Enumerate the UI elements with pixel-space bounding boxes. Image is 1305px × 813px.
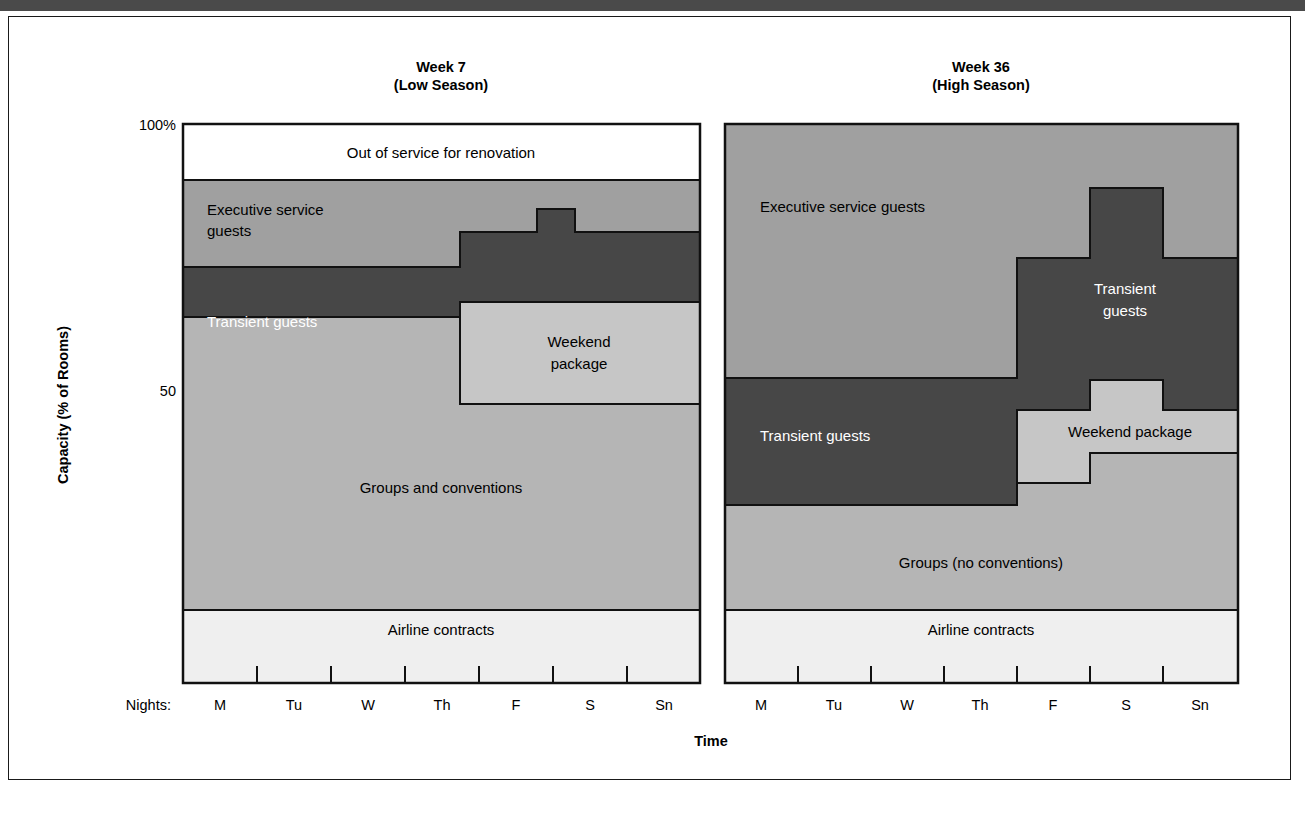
right-day-label-sn: Sn bbox=[1191, 697, 1209, 713]
right-day-label-tu: Tu bbox=[826, 697, 842, 713]
right-day-label-f: F bbox=[1049, 697, 1058, 713]
left-day-labels: M Tu W Th F S Sn bbox=[214, 697, 673, 713]
capacity-chart-svg: Capacity (% of Rooms) 100% 50 Week 7 (Lo… bbox=[0, 0, 1305, 813]
y-tick-50: 50 bbox=[160, 383, 176, 399]
left-label-executive-line2: guests bbox=[207, 222, 251, 239]
right-label-transient-left: Transient guests bbox=[760, 427, 870, 444]
left-day-label-sn: Sn bbox=[655, 697, 673, 713]
right-label-executive: Executive service guests bbox=[760, 198, 925, 215]
left-label-weekend-line2: package bbox=[551, 355, 608, 372]
right-day-label-w: W bbox=[900, 697, 914, 713]
left-panel-title: Week 7 bbox=[416, 59, 466, 75]
right-panel-title: Week 36 bbox=[952, 59, 1010, 75]
left-day-label-w: W bbox=[361, 697, 375, 713]
left-label-weekend-line1: Weekend bbox=[547, 333, 610, 350]
y-axis-title: Capacity (% of Rooms) bbox=[55, 326, 71, 484]
right-day-label-s: S bbox=[1121, 697, 1131, 713]
right-day-label-m: M bbox=[755, 697, 767, 713]
right-label-transient-line2: guests bbox=[1103, 302, 1147, 319]
right-label-weekend: Weekend package bbox=[1068, 423, 1192, 440]
left-label-renovation: Out of service for renovation bbox=[347, 144, 535, 161]
panel-week-36: Week 36 (High Season) Executive service … bbox=[725, 59, 1238, 713]
right-day-labels: M Tu W Th F S Sn bbox=[755, 697, 1209, 713]
nights-axis-label: Nights: bbox=[126, 697, 171, 713]
right-label-airline: Airline contracts bbox=[928, 621, 1035, 638]
y-axis-group: Capacity (% of Rooms) 100% 50 bbox=[55, 117, 176, 484]
left-label-executive-line1: Executive service bbox=[207, 201, 324, 218]
figure-stage: Capacity (% of Rooms) 100% 50 Week 7 (Lo… bbox=[0, 0, 1305, 813]
left-label-transient: Transient guests bbox=[207, 313, 317, 330]
right-label-groups: Groups (no conventions) bbox=[899, 554, 1063, 571]
y-tick-100: 100% bbox=[139, 117, 176, 133]
left-label-groups: Groups and conventions bbox=[360, 479, 523, 496]
left-band-weekend-package bbox=[460, 302, 700, 404]
right-day-label-th: Th bbox=[972, 697, 989, 713]
left-panel-subtitle: (Low Season) bbox=[394, 77, 488, 93]
left-day-label-th: Th bbox=[434, 697, 451, 713]
right-label-transient-line1: Transient bbox=[1094, 280, 1157, 297]
right-panel-subtitle: (High Season) bbox=[932, 77, 1030, 93]
panel-week-7: Week 7 (Low Season) Out of service for r… bbox=[126, 59, 700, 713]
left-day-label-tu: Tu bbox=[286, 697, 302, 713]
left-label-airline: Airline contracts bbox=[388, 621, 495, 638]
x-axis-title: Time bbox=[694, 733, 728, 749]
left-day-label-s: S bbox=[585, 697, 595, 713]
left-day-label-m: M bbox=[214, 697, 226, 713]
left-day-label-f: F bbox=[512, 697, 521, 713]
